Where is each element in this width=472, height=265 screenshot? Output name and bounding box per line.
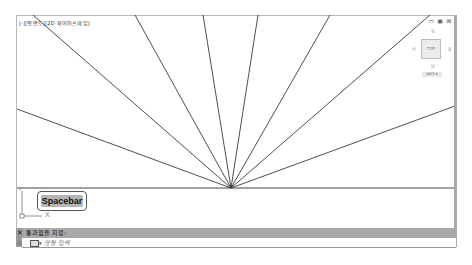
wrench-icon[interactable]: ⚙ (17, 239, 22, 247)
maximize-icon[interactable]: ▣ (437, 18, 443, 24)
viewcube-west[interactable]: 서 (412, 46, 416, 52)
viewport-scrollbar[interactable] (454, 15, 457, 247)
xline-ray[interactable] (33, 15, 231, 188)
restore-icon[interactable]: ▭ (428, 18, 434, 24)
ucs-y-label: Y (19, 186, 22, 192)
spacebar-label: Spacebar (41, 195, 83, 207)
viewcube-south[interactable]: 남 (431, 63, 435, 69)
wcs-dropdown[interactable]: WCS ▾ (422, 72, 442, 77)
xline-ray[interactable] (231, 106, 455, 188)
viewport-controls-label[interactable]: [-][평면도][2D 와이어프레임] (19, 19, 90, 26)
viewcube-top-face[interactable]: TOP (421, 39, 441, 59)
spacebar-key-overlay: Spacebar (37, 191, 87, 211)
close-icon[interactable]: ⊠ (446, 18, 452, 24)
ucs-x-label: X (45, 211, 50, 219)
command-input[interactable] (44, 238, 244, 247)
chevron-down-icon[interactable]: ▾ (39, 239, 42, 247)
viewport-window-controls: ▭ ▣ ⊠ (428, 18, 452, 24)
close-icon[interactable]: ✕ (17, 229, 23, 237)
drawing-canvas[interactable] (0, 0, 472, 265)
viewcube[interactable]: 북 서 TOP 동 남 WCS ▾ (412, 28, 452, 78)
viewcube-east[interactable]: 동 (448, 46, 452, 52)
xline-ray[interactable] (231, 15, 258, 188)
xline-ray[interactable] (231, 15, 330, 188)
viewcube-north[interactable]: 북 (431, 28, 435, 34)
xline-ray[interactable] (17, 109, 231, 188)
xline-ray[interactable] (231, 15, 430, 188)
command-history-bar (16, 228, 457, 238)
command-recent-icon[interactable] (30, 240, 39, 247)
command-prompt: 통과점을 지정: (26, 229, 66, 237)
